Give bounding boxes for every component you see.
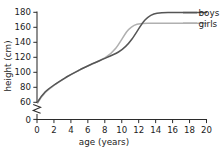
x-tick-label-18: 18 xyxy=(184,125,195,135)
x-tick-marks xyxy=(37,120,207,124)
y-tick-label-180: 180 xyxy=(15,7,31,17)
x-tick-label-10: 10 xyxy=(116,125,127,135)
legend: boys girls xyxy=(183,8,220,29)
legend-entry-girls: girls xyxy=(183,19,218,29)
y-tick-label-140: 140 xyxy=(15,37,31,47)
x-tick-label-14: 14 xyxy=(150,125,161,135)
growth-chart-svg: 180 160 140 120 100 80 60 0 0 2 xyxy=(0,0,222,149)
y-tick-marks xyxy=(33,12,37,119)
series-line-girls xyxy=(38,23,207,103)
legend-entry-boys: boys xyxy=(183,8,220,18)
x-tick-label-6: 6 xyxy=(85,125,90,135)
x-tick-labels: 0 2 4 6 8 10 12 14 16 18 20 xyxy=(34,125,212,135)
x-tick-label-16: 16 xyxy=(167,125,178,135)
x-tick-label-8: 8 xyxy=(102,125,107,135)
y-tick-label-120: 120 xyxy=(15,52,31,62)
y-axis-title: height (cm) xyxy=(3,40,13,91)
x-tick-label-20: 20 xyxy=(201,125,212,135)
x-axis-title: age (years) xyxy=(79,137,129,147)
y-tick-labels: 180 160 140 120 100 80 60 0 xyxy=(15,7,31,124)
y-tick-label-0: 0 xyxy=(26,115,31,125)
series-line-boys xyxy=(38,13,207,102)
y-tick-label-160: 160 xyxy=(15,22,31,32)
y-tick-label-100: 100 xyxy=(15,67,31,77)
y-tick-label-80: 80 xyxy=(20,82,31,92)
x-tick-label-0: 0 xyxy=(34,125,39,135)
y-axis-break-icon xyxy=(33,104,40,113)
legend-label-girls: girls xyxy=(199,19,218,29)
legend-label-boys: boys xyxy=(199,8,220,18)
x-tick-label-12: 12 xyxy=(133,125,144,135)
x-tick-label-2: 2 xyxy=(51,125,56,135)
chart-figure: 180 160 140 120 100 80 60 0 0 2 xyxy=(0,0,222,149)
y-tick-label-60: 60 xyxy=(20,97,31,107)
x-tick-label-4: 4 xyxy=(68,125,73,135)
